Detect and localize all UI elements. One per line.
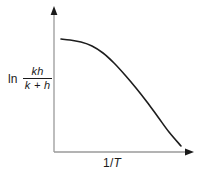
data-curve <box>61 39 181 146</box>
y-axis-arrow-icon <box>51 6 58 15</box>
y-axis-label-operator: ln <box>8 73 18 85</box>
y-axis-label-numerator: kh <box>29 66 45 78</box>
y-axis-label: ln kh k + h <box>8 66 52 91</box>
y-axis-label-denominator: k + h <box>23 79 53 91</box>
x-axis-label: 1/T <box>103 157 121 169</box>
x-axis-label-prefix: 1/ <box>103 156 114 170</box>
y-axis-label-fraction: kh k + h <box>23 66 53 91</box>
x-axis-arrow-icon <box>185 149 194 156</box>
x-axis-label-variable: T <box>114 156 122 170</box>
figure-container: ln kh k + h 1/T <box>0 0 208 177</box>
